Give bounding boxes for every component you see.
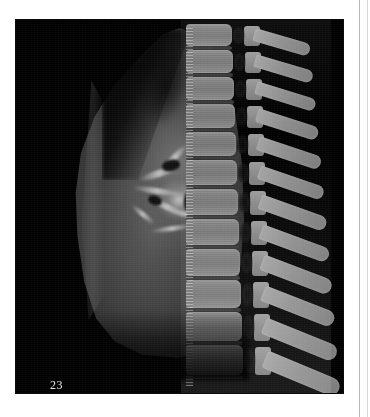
figure-number-label: 23 [50,378,63,393]
document-page: 23 [0,0,370,417]
page-gutter-line [359,0,360,417]
page-edge-line [367,0,368,417]
scan-noise-overlay [16,20,343,393]
ct-image-panel: 23 [16,20,343,393]
